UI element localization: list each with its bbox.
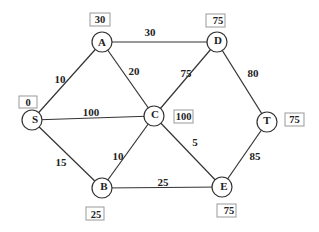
weight-a-c: 20 <box>129 65 141 77</box>
node-t-label: T <box>263 114 271 126</box>
edge-d-t <box>217 42 267 122</box>
node-c: C <box>144 106 164 126</box>
graph-diagram: 10 30 20 100 75 80 15 10 5 25 85 A D S C… <box>0 0 319 232</box>
distance-box-b: 25 <box>86 207 104 220</box>
edge-a-c <box>102 42 154 116</box>
distance-box-a: 30 <box>90 13 110 26</box>
node-s-label: S <box>32 113 38 125</box>
edge-s-b <box>32 120 102 188</box>
weight-s-b: 15 <box>56 156 68 168</box>
distance-t: 75 <box>289 114 300 125</box>
node-e: E <box>212 177 232 197</box>
node-d: D <box>207 32 227 52</box>
node-s: S <box>22 110 42 130</box>
weight-s-a: 10 <box>55 73 67 85</box>
distance-box-d: 75 <box>206 14 225 27</box>
weight-a-d: 30 <box>145 26 157 38</box>
edge-c-d <box>154 42 217 116</box>
weight-e-t: 85 <box>250 150 262 162</box>
weight-d-t: 80 <box>248 67 260 79</box>
node-e-label: E <box>220 180 227 192</box>
distance-c: 100 <box>176 111 192 122</box>
node-b-label: B <box>100 180 108 192</box>
distance-box-t: 75 <box>285 113 304 126</box>
node-b: B <box>92 178 112 198</box>
weight-b-e: 25 <box>158 176 170 188</box>
distance-d: 75 <box>213 15 224 26</box>
distance-a: 30 <box>95 14 106 25</box>
weight-c-d: 75 <box>181 67 193 79</box>
distance-box-e: 75 <box>217 204 236 217</box>
node-c-label: C <box>151 108 159 120</box>
node-a: A <box>92 32 112 52</box>
distance-e: 75 <box>224 205 235 216</box>
node-t: T <box>257 112 277 132</box>
distance-b: 25 <box>91 209 102 220</box>
distance-s: 0 <box>25 97 30 108</box>
node-a-label: A <box>98 36 106 48</box>
distance-box-c: 100 <box>174 110 193 123</box>
distance-box-s: 0 <box>19 96 37 108</box>
weight-s-c: 100 <box>83 106 100 118</box>
edge-b-c <box>102 116 154 188</box>
weight-c-e: 5 <box>192 136 198 148</box>
node-d-label: D <box>214 34 222 46</box>
weight-b-c: 10 <box>113 150 125 162</box>
